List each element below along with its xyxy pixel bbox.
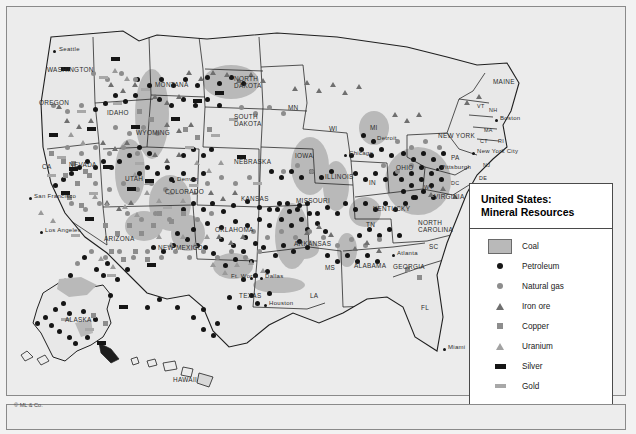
iron-ore-marker <box>198 76 204 81</box>
gold-marker <box>253 182 262 185</box>
iron-ore-marker <box>88 118 94 123</box>
iron-ore-marker <box>232 190 238 195</box>
petroleum-marker <box>355 259 360 264</box>
copper-marker <box>183 127 188 132</box>
petroleum-marker <box>419 165 424 170</box>
silver-marker <box>193 99 202 103</box>
gold-marker <box>107 274 116 277</box>
natural-gas-dot-icon <box>497 283 503 289</box>
natural-gas-marker <box>253 111 258 116</box>
silver-marker <box>97 341 106 345</box>
uranium-marker <box>124 76 130 81</box>
petroleum-marker <box>191 315 196 320</box>
natural-gas-marker <box>139 217 144 222</box>
petroleum-marker <box>61 301 66 306</box>
iron-ore-marker <box>304 230 310 235</box>
iron-ore-marker <box>416 112 422 117</box>
petroleum-marker <box>277 201 282 206</box>
legend-row: Iron ore <box>470 296 612 316</box>
iron-ore-marker <box>248 72 254 77</box>
petroleum-marker <box>53 307 58 312</box>
city-dot <box>250 277 253 280</box>
copper-marker <box>121 257 126 262</box>
iron-ore-marker <box>176 128 182 133</box>
copper-marker <box>149 117 154 122</box>
petroleum-marker <box>175 305 180 310</box>
petroleum-marker <box>101 273 106 278</box>
iron-ore-marker <box>152 152 158 157</box>
petroleum-marker <box>201 171 206 176</box>
legend-key-slot <box>484 303 516 310</box>
natural-gas-marker <box>121 181 126 186</box>
city-dot <box>260 277 263 280</box>
copper-marker <box>145 257 150 262</box>
legend-title-line2: Mineral Resources <box>481 206 602 219</box>
natural-gas-marker <box>201 249 206 254</box>
copper-marker <box>139 231 144 236</box>
petroleum-marker <box>285 201 290 206</box>
uranium-marker <box>134 212 140 217</box>
natural-gas-marker <box>75 261 80 266</box>
petroleum-marker <box>389 153 394 158</box>
petroleum-marker <box>215 321 220 326</box>
petroleum-marker <box>383 177 388 182</box>
natural-gas-marker <box>51 103 56 108</box>
uranium-marker <box>180 198 186 203</box>
city-dot <box>172 180 175 183</box>
iron-ore-marker <box>356 84 362 89</box>
iron-ore-marker <box>220 196 226 201</box>
petroleum-marker <box>211 333 216 338</box>
petroleum-marker <box>161 249 166 254</box>
iron-ore-marker <box>316 224 322 229</box>
city-dot <box>495 119 498 122</box>
petroleum-marker <box>279 217 284 222</box>
legend-label: Copper <box>516 322 549 331</box>
natural-gas-marker <box>233 181 238 186</box>
copper-marker <box>417 275 422 280</box>
natural-gas-marker <box>335 243 340 248</box>
natural-gas-marker <box>131 255 136 260</box>
legend-row: Silver <box>470 356 612 376</box>
petroleum-marker <box>157 297 162 302</box>
iron-ore-marker <box>352 246 358 251</box>
iron-ore-marker <box>404 118 410 123</box>
iron-ore-marker <box>124 140 130 145</box>
iron-ore-marker <box>328 232 334 237</box>
copper-marker <box>151 223 156 228</box>
natural-gas-marker <box>295 163 300 168</box>
petroleum-marker <box>217 81 222 86</box>
petroleum-marker <box>375 259 380 264</box>
natural-gas-marker <box>65 109 70 114</box>
petroleum-marker <box>217 103 222 108</box>
iron-ore-marker <box>342 90 348 95</box>
gold-marker <box>57 156 66 159</box>
natural-gas-marker <box>279 229 284 234</box>
copper-marker <box>79 203 84 208</box>
iron-ore-marker <box>316 88 322 93</box>
petroleum-marker <box>267 291 272 296</box>
petroleum-marker <box>165 165 170 170</box>
copper-marker <box>83 169 88 174</box>
petroleum-marker <box>210 201 215 206</box>
iron-ore-marker <box>428 192 434 197</box>
natural-gas-marker <box>107 187 112 192</box>
natural-gas-marker <box>127 131 132 136</box>
natural-gas-marker <box>395 169 400 174</box>
petroleum-marker <box>343 201 348 206</box>
copper-marker <box>49 151 54 156</box>
petroleum-marker <box>69 171 74 176</box>
natural-gas-marker <box>117 249 122 254</box>
iron-ore-marker <box>128 200 134 205</box>
petroleum-marker <box>105 261 110 266</box>
petroleum-marker <box>441 151 446 156</box>
petroleum-marker <box>113 93 118 98</box>
iron-ore-triangle-icon <box>496 303 504 310</box>
legend-key-slot <box>484 384 516 388</box>
petroleum-marker <box>401 151 406 156</box>
petroleum-marker <box>43 315 48 320</box>
petroleum-marker <box>361 133 366 138</box>
city-dot <box>392 254 395 257</box>
natural-gas-marker <box>243 255 248 260</box>
petroleum-marker <box>231 203 236 208</box>
copper-marker <box>67 195 72 200</box>
